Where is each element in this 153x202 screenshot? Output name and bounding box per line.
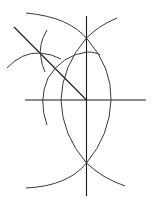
arc-upper-left-to-lens-right	[26, 13, 111, 163]
arc-upper-right-to-lens-left	[61, 18, 117, 163]
arc-bisector-vertical	[40, 30, 47, 72]
arc-lower-left	[26, 163, 87, 188]
arc-lower-right	[87, 163, 126, 186]
arc-centered-origin	[43, 52, 100, 125]
bisector-line	[14, 27, 87, 100]
construction-diagram	[0, 0, 153, 202]
